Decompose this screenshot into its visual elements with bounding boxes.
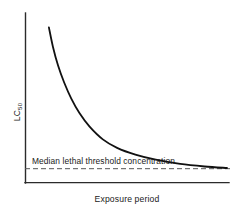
threshold-annotation-label: Median lethal threshold concentration [32, 156, 175, 166]
y-axis-title-group: LC50 [12, 102, 24, 121]
lc50-exposure-figure: LC50 Exposure period Median lethal thres… [0, 0, 243, 212]
y-axis-title-main: LC [12, 110, 22, 121]
y-axis-title-subscript: 50 [16, 102, 23, 110]
chart-canvas: LC50 Exposure period Median lethal thres… [0, 0, 243, 212]
x-axis-title: Exposure period [95, 194, 160, 204]
y-axis-title: LC50 [12, 102, 24, 121]
lc50-decay-curve [49, 27, 227, 168]
